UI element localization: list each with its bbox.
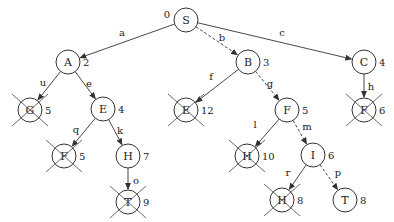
edge-line (256, 119, 280, 146)
node-cost: 12 (201, 105, 214, 116)
nodes-layer: S0A2B3C4G5E4E12F5F6F5H7H10I6T9H8T8 (12, 8, 385, 218)
edge-label: o (133, 175, 139, 186)
edge-label: p (335, 167, 341, 178)
edge-line (196, 69, 238, 102)
node-C: C4 (352, 50, 385, 74)
node-label: E (99, 103, 107, 116)
edge-label: k (117, 125, 124, 136)
edge-k: k (109, 120, 124, 145)
node-cost: 8 (297, 195, 303, 206)
node-F-pruned: F6 (346, 94, 385, 126)
node-cost: 2 (83, 57, 89, 68)
edge-label: h (368, 81, 375, 92)
node-cost: 4 (379, 57, 385, 68)
node-cost: 6 (379, 105, 385, 116)
edge-label: u (40, 77, 47, 88)
edge-label: a (119, 27, 125, 38)
edge-r: r (286, 165, 307, 189)
node-T: T8 (333, 188, 366, 212)
edge-l: l (253, 119, 279, 147)
edge-label: q (73, 124, 80, 135)
node-cost: 10 (262, 151, 275, 162)
node-H-pruned: H8 (264, 184, 303, 216)
node-label: I (311, 149, 315, 162)
node-label: T (341, 194, 349, 207)
edge-u: u (38, 71, 60, 99)
node-label: F (283, 104, 291, 117)
node-cost: 7 (143, 151, 149, 162)
node-H: H7 (116, 144, 149, 168)
edge-label: r (286, 167, 291, 178)
node-G-pruned: G5 (12, 94, 51, 126)
edge-label: c (279, 27, 285, 38)
edge-f: f (196, 69, 238, 102)
edge-label: m (302, 121, 312, 132)
edge-o: o (128, 168, 139, 189)
edge-label: f (209, 71, 214, 82)
node-cost: 5 (302, 105, 308, 116)
node-cost: 0 (164, 9, 170, 20)
node-cost: 5 (45, 105, 51, 116)
node-cost: 9 (143, 197, 149, 208)
edge-p: p (320, 165, 341, 190)
edge-label: l (253, 119, 256, 130)
edge-g: g (256, 71, 279, 100)
node-cost: 3 (263, 57, 269, 68)
node-F-pruned: F5 (46, 140, 85, 172)
node-cost: 6 (328, 150, 334, 161)
node-label: A (63, 56, 73, 69)
edge-q: q (72, 118, 95, 146)
edge-line (80, 24, 174, 58)
edge-label: b (219, 32, 225, 43)
edge-e: e (75, 72, 95, 99)
node-label: B (244, 56, 252, 69)
node-label: H (123, 150, 133, 163)
edge-m: m (293, 120, 312, 143)
edge-label: g (267, 78, 274, 89)
node-label: S (182, 14, 190, 27)
edge-h: h (364, 74, 375, 97)
node-E-pruned: E12 (168, 94, 214, 126)
node-cost: 4 (118, 104, 124, 115)
node-T-pruned: T9 (110, 186, 149, 218)
node-label: C (360, 56, 368, 69)
edge-a: a (80, 24, 174, 58)
node-E: E4 (91, 97, 124, 121)
node-cost: 5 (79, 151, 85, 162)
edge-label: e (86, 78, 92, 89)
search-tree-diagram: abcueqkofglmrph S0A2B3C4G5E4E12F5F6F5H7H… (0, 0, 394, 222)
node-B: B3 (236, 50, 269, 74)
node-H-pruned: H10 (229, 140, 275, 172)
node-cost: 8 (360, 195, 366, 206)
node-I: I6 (301, 143, 334, 167)
node-A: A2 (56, 50, 89, 74)
node-F: F5 (275, 98, 308, 122)
node-S: S0 (164, 8, 198, 32)
